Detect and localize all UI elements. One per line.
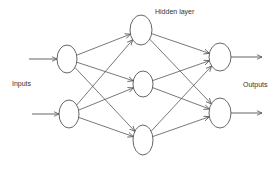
input-neuron-0 [57, 45, 77, 73]
hidden-neuron-0 [130, 15, 152, 45]
edge-hidden-2-to-output-1 [153, 117, 210, 137]
hidden-layer-label: Hidden layer [155, 8, 195, 16]
edge-input-1-to-hidden-1 [79, 88, 134, 110]
outputs-label: Outputs [243, 81, 268, 89]
input-neuron-1 [59, 100, 79, 128]
neuron-nodes [57, 15, 231, 155]
edge-input-1-to-hidden-0 [77, 40, 133, 105]
edge-hidden-0-to-output-1 [150, 39, 212, 104]
edge-hidden-1-to-output-1 [153, 88, 210, 109]
hidden-neuron-2 [133, 125, 153, 155]
hidden-neuron-1 [133, 71, 153, 97]
neural-network-diagram: Inputs Hidden layer Outputs [0, 0, 279, 169]
edge-input-1-to-hidden-2 [79, 117, 134, 136]
output-neuron-0 [209, 43, 231, 71]
edge-hidden-2-to-output-0 [151, 66, 211, 131]
inputs-label: Inputs [12, 80, 32, 88]
output-neuron-1 [209, 98, 231, 128]
